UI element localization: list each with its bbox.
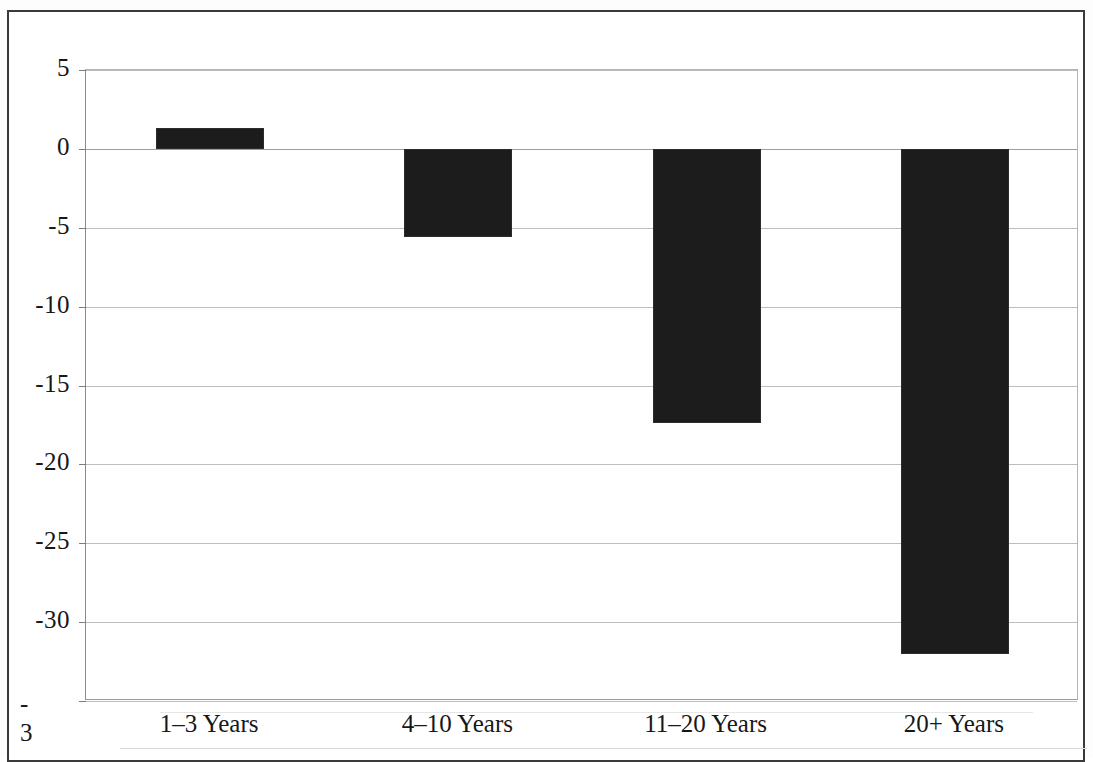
- y-axis-tick-mark--35: [79, 701, 86, 702]
- y-axis-tick-label--25: -25: [0, 528, 70, 553]
- y-axis-tick-mark--15: [79, 386, 86, 387]
- x-axis-category-label: 11–20 Years: [582, 710, 830, 738]
- bar: [901, 149, 1009, 654]
- x-axis-category-label: 20+ Years: [830, 710, 1078, 738]
- plot-area: [85, 69, 1078, 700]
- x-axis-category-label: 4–10 Years: [333, 710, 581, 738]
- scan-artifact-line-upper: [160, 712, 1033, 713]
- gridline-5: [86, 70, 1077, 71]
- y-axis-tick-label-5: 5: [0, 55, 70, 80]
- y-axis-tick-label-0: 0: [0, 134, 70, 159]
- y-axis-tick-label--15: -15: [0, 371, 70, 396]
- y-axis-tick-mark--10: [79, 307, 86, 308]
- y-axis-tick-label--10: -10: [0, 292, 70, 317]
- y-axis-tick-label--30: -30: [0, 607, 70, 632]
- y-axis-tick-label--20: -20: [0, 449, 70, 474]
- y-axis-tick-mark--20: [79, 464, 86, 465]
- bar: [156, 128, 264, 149]
- y-axis-tick-mark--30: [79, 622, 86, 623]
- y-axis-tick-label-clipped: - 3: [20, 690, 48, 748]
- y-axis-tick-mark--25: [79, 543, 86, 544]
- x-axis-category-label: 1–3 Years: [85, 710, 333, 738]
- y-axis-tick-label--5: -5: [0, 213, 70, 238]
- scan-artifact-line-lower: [120, 748, 1087, 749]
- bar: [653, 149, 761, 423]
- gridline--35: [86, 701, 1077, 702]
- y-axis-tick-mark--5: [79, 228, 86, 229]
- y-axis-tick-mark-5: [79, 70, 86, 71]
- y-axis-tick-label-clipped-digit: 3: [20, 719, 33, 746]
- y-axis-tick-label-clipped-minus: -: [20, 690, 29, 717]
- bar: [404, 149, 512, 237]
- y-axis-tick-mark-0: [79, 149, 86, 150]
